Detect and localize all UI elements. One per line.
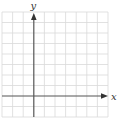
- y-axis-label: y: [30, 0, 37, 11]
- y-axis-arrow-icon: [31, 13, 37, 20]
- x-axis-arrow-icon: [101, 93, 108, 99]
- grid-lines: [2, 12, 108, 117]
- x-axis-label: x: [111, 91, 117, 102]
- coordinate-plane: x y: [0, 0, 119, 123]
